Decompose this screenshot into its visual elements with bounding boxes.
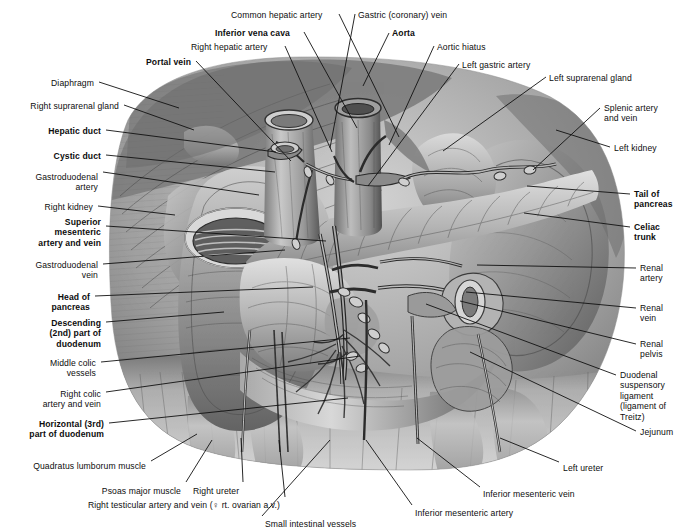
label-tail-of-pancreas: Tail of pancreas (634, 189, 673, 210)
label-renal-artery: Renal artery (640, 263, 663, 284)
label-hepatic-duct: Hepatic duct (48, 126, 101, 136)
label-horizontal-3rd-part-of-duodenum: Horizontal (3rd) part of duodenum (29, 419, 104, 440)
label-cystic-duct: Cystic duct (54, 151, 101, 161)
label-small-intestinal-vessels: Small intestinal vessels (265, 519, 356, 529)
label-left-suprarenal-gland: Left suprarenal gland (549, 73, 632, 83)
label-gastroduodenal-artery: Gastroduodenal artery (35, 172, 98, 193)
anatomy-plate: Common hepatic arteryGastric (coronary) … (0, 0, 681, 531)
label-right-suprarenal-gland: Right suprarenal gland (30, 101, 119, 111)
label-gastric-coronary-vein: Gastric (coronary) vein (358, 10, 447, 20)
label-celiac-trunk: Celiac trunk (634, 222, 660, 243)
label-diaphragm: Diaphragm (51, 78, 94, 88)
label-inferior-mesenteric-artery: Inferior mesenteric artery (415, 508, 513, 518)
label-duodenal-suspensory-ligament: Duodenal suspensory ligament (ligament o… (620, 370, 666, 422)
label-right-colic-artery-and-vein: Right colic artery and vein (43, 389, 101, 410)
label-splenic-artery-and-vein: Splenic artery and vein (604, 103, 658, 124)
label-aorta: Aorta (392, 28, 415, 38)
label-right-testicular-artery-and-vein: Right testicular artery and vein (♀ rt. … (88, 500, 280, 510)
label-jejunum: Jejunum (640, 427, 673, 437)
label-renal-pelvis: Renal pelvis (640, 339, 663, 360)
label-descending-2nd-part-of-duodenum: Descending (2nd) part of duodenum (50, 318, 101, 349)
label-quadratus-lumborum-muscle: Quadratus lumborum muscle (33, 461, 146, 471)
label-superior-mesenteric-artery-and-vein: Superior mesenteric artery and vein (38, 217, 101, 248)
label-aortic-hiatus: Aortic hiatus (437, 42, 486, 52)
label-left-ureter: Left ureter (563, 463, 603, 473)
label-right-kidney: Right kidney (45, 202, 94, 212)
label-inferior-mesenteric-vein: Inferior mesenteric vein (483, 489, 575, 499)
label-head-of-pancreas: Head of pancreas (51, 292, 90, 313)
label-middle-colic-vessels: Middle colic vessels (50, 358, 96, 379)
label-right-ureter: Right ureter (193, 486, 239, 496)
label-right-hepatic-artery: Right hepatic artery (191, 42, 268, 52)
label-common-hepatic-artery: Common hepatic artery (231, 10, 322, 20)
label-psoas-major-muscle: Psoas major muscle (102, 486, 181, 496)
label-left-gastric-artery: Left gastric artery (462, 60, 530, 70)
label-portal-vein: Portal vein (146, 57, 191, 67)
label-gastroduodenal-vein: Gastroduodenal vein (35, 260, 98, 281)
label-inferior-vena-cava: Inferior vena cava (215, 28, 290, 38)
label-left-kidney: Left kidney (614, 143, 657, 153)
label-renal-vein: Renal vein (640, 303, 663, 324)
